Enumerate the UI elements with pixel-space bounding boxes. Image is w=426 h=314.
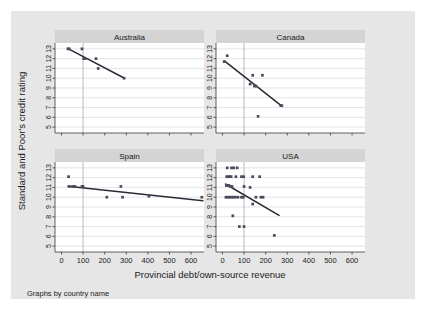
ytick-label: 9 [206, 205, 213, 209]
ytick-label: 8 [206, 96, 213, 100]
ytick-label: 9 [45, 205, 52, 209]
data-point [255, 85, 258, 88]
x-axis-title: Provincial debt/own-source revenue [134, 269, 285, 280]
panel-title-australia: Australia [114, 33, 146, 42]
ytick-label: 13 [45, 164, 52, 172]
data-point [242, 196, 245, 199]
ytick-label: 12 [45, 174, 52, 182]
ytick-label: 5 [45, 125, 52, 129]
data-point [262, 196, 265, 199]
ytick-label: 5 [45, 244, 52, 248]
ytick-label: 10 [206, 193, 213, 201]
ytick-label: 11 [45, 65, 52, 72]
data-point [74, 185, 77, 188]
ytick-label: 6 [45, 234, 52, 238]
ytick-label: 7 [206, 106, 213, 110]
ytick-label: 12 [206, 55, 213, 63]
ytick-label: 7 [206, 225, 213, 229]
data-point [238, 225, 241, 228]
ytick-label: 6 [45, 115, 52, 119]
data-point [226, 167, 229, 170]
panel-usa: USA56789101112130100200300400500600 [206, 149, 365, 265]
data-point [95, 57, 98, 60]
data-point [234, 196, 237, 199]
xtick-label: 200 [259, 256, 272, 265]
ytick-label: 11 [206, 184, 213, 191]
data-point [68, 185, 71, 188]
data-point [243, 185, 246, 188]
data-point [232, 167, 235, 170]
data-point [97, 67, 100, 70]
ytick-label: 11 [206, 65, 213, 72]
ytick-label: 11 [45, 184, 52, 191]
xtick-label: 500 [163, 256, 176, 265]
data-point [236, 167, 239, 170]
ytick-label: 12 [206, 174, 213, 182]
ytick-label: 8 [206, 215, 213, 219]
data-point [200, 196, 203, 199]
data-point [242, 175, 245, 178]
data-point [255, 196, 258, 199]
panel-australia: Australia5678910111213 [45, 30, 204, 136]
ytick-label: 13 [45, 45, 52, 53]
panel-title-canada: Canada [276, 33, 305, 42]
data-point [230, 175, 233, 178]
ytick-label: 13 [206, 45, 213, 53]
ytick-label: 13 [206, 164, 213, 172]
data-point [281, 104, 284, 107]
data-point [223, 60, 226, 63]
data-point [273, 234, 276, 237]
xtick-label: 100 [77, 256, 90, 265]
ytick-label: 10 [45, 193, 52, 201]
xtick-label: 600 [185, 256, 198, 265]
ytick-label: 7 [45, 106, 52, 110]
y-axis-title: Standard and Poor's credit rating [16, 72, 27, 211]
data-point [261, 74, 264, 77]
panel-title-usa: USA [282, 152, 299, 161]
xtick-label: 300 [281, 256, 294, 265]
xtick-label: 600 [346, 256, 359, 265]
ytick-label: 10 [206, 74, 213, 82]
xtick-label: 0 [59, 256, 63, 265]
data-point [120, 185, 123, 188]
data-point [243, 225, 246, 228]
ytick-label: 5 [206, 125, 213, 129]
xtick-label: 400 [303, 256, 316, 265]
data-point [67, 175, 70, 178]
data-point [231, 214, 234, 217]
xtick-label: 400 [142, 256, 155, 265]
data-point [82, 185, 85, 188]
panel-spain: Spain56789101112130100200300400500600 [45, 149, 204, 265]
data-point [235, 175, 238, 178]
data-point [68, 48, 71, 51]
data-point [123, 77, 126, 80]
data-point [249, 186, 252, 189]
ytick-label: 8 [45, 96, 52, 100]
screenshot-root: Australia5678910111213Canada567891011121… [0, 0, 426, 314]
data-point [237, 196, 240, 199]
footer-note: Graphs by country name [27, 289, 109, 298]
data-point [251, 74, 254, 77]
ytick-label: 5 [206, 244, 213, 248]
data-point [148, 195, 151, 198]
data-point [121, 196, 124, 199]
data-point [249, 83, 252, 86]
ytick-label: 7 [45, 225, 52, 229]
data-point [81, 48, 84, 51]
xtick-label: 0 [220, 256, 224, 265]
data-point [251, 175, 254, 178]
ytick-label: 12 [45, 55, 52, 63]
faceted-scatter-chart: Australia5678910111213Canada567891011121… [11, 11, 415, 299]
xtick-label: 200 [98, 256, 111, 265]
panel-canada: Canada5678910111213 [206, 30, 365, 136]
ytick-label: 6 [206, 115, 213, 119]
xtick-label: 100 [238, 256, 251, 265]
data-point [251, 203, 254, 206]
data-point [257, 115, 260, 118]
panel-title-spain: Spain [119, 152, 139, 161]
xtick-label: 500 [324, 256, 337, 265]
xtick-label: 300 [120, 256, 133, 265]
data-point [84, 57, 87, 60]
graph-card: Australia5678910111213Canada567891011121… [11, 11, 415, 299]
data-point [231, 185, 234, 188]
